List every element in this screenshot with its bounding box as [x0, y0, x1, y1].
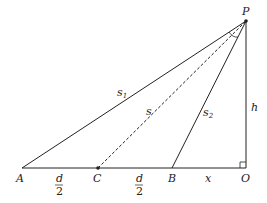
label-s1: s1 [117, 86, 127, 100]
label-p: P [241, 5, 250, 18]
label-o: O [241, 172, 250, 185]
label-h: h [251, 101, 258, 114]
label-c: C [93, 172, 102, 185]
label-bo-x: x [205, 172, 212, 185]
point-c [96, 166, 100, 170]
right-angle-marker [240, 162, 246, 168]
label-a: A [15, 172, 24, 185]
label-ac-denominator: 2 [56, 185, 63, 198]
label-s2: s2 [203, 106, 214, 120]
geometry-diagram: P A C B O s1 s s2 h d 2 d 2 x [0, 0, 267, 203]
label-ac-numerator: d [56, 172, 63, 185]
label-cb-denominator: 2 [136, 185, 143, 198]
segment-s2 [172, 21, 246, 168]
label-cb-numerator: d [136, 172, 143, 185]
segment-s1 [22, 21, 246, 168]
label-s: s [146, 105, 152, 118]
point-p [244, 19, 248, 23]
label-b: B [167, 172, 176, 185]
